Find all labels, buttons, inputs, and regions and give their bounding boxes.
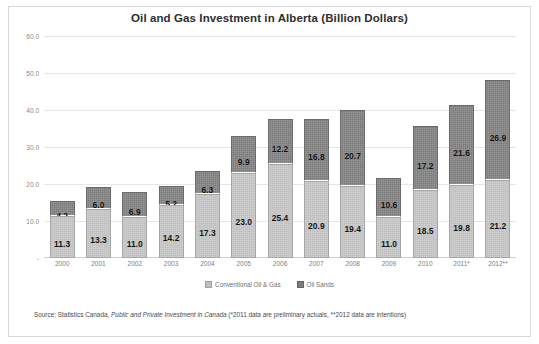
bar-value-label: 11.0 <box>127 240 143 249</box>
bar-series-container: 4.211.36.013.36.911.05.214.26.317.39.923… <box>44 36 516 258</box>
chart-screenshot: Oil and Gas Investment in Alberta (Billi… <box>0 0 539 344</box>
y-axis-tick-label: 10.0 <box>26 218 39 225</box>
x-axis-tick-label: 2001 <box>80 260 116 267</box>
stacked-bar[interactable]: 6.013.3 <box>86 187 111 258</box>
stacked-bar[interactable]: 16.820.9 <box>304 119 329 258</box>
x-axis-tick-label: 2004 <box>189 260 225 267</box>
bar-segment-conventional-oil-gas[interactable]: 13.3 <box>86 209 111 258</box>
bar-value-label: 14.2 <box>163 234 180 243</box>
y-axis-tick-label: 50.0 <box>26 70 39 77</box>
bar-segment-oil-sands[interactable]: 5.2 <box>159 186 184 205</box>
bar-slot[interactable]: 20.719.4 <box>335 36 371 258</box>
bar-value-label: 9.9 <box>238 158 250 167</box>
legend-label: Conventional Oil & Gas <box>215 281 280 288</box>
y-axis-tick-label: 40.0 <box>26 107 39 114</box>
stacked-bar[interactable]: 5.214.2 <box>159 186 184 258</box>
y-axis-tick-label: 30.0 <box>26 144 39 151</box>
bar-value-label: 20.7 <box>344 152 361 161</box>
bar-segment-conventional-oil-gas[interactable]: 17.3 <box>195 194 220 258</box>
stacked-bar[interactable]: 10.611.0 <box>376 178 401 258</box>
bar-segment-oil-sands[interactable]: 10.6 <box>376 178 401 217</box>
bar-segment-conventional-oil-gas[interactable]: 11.3 <box>50 216 75 258</box>
bar-slot[interactable]: 9.923.0 <box>226 36 262 258</box>
x-axis-labels: 2000200120022003200420052006200720082009… <box>44 260 516 267</box>
bar-segment-oil-sands[interactable]: 6.3 <box>195 171 220 194</box>
bar-slot[interactable]: 26.921.2 <box>480 36 516 258</box>
bar-segment-conventional-oil-gas[interactable]: 14.2 <box>159 205 184 258</box>
legend-swatch-conventional-icon <box>205 281 212 288</box>
source-suffix: (*2011 data are preliminary actuals, **2… <box>227 311 407 318</box>
stacked-bar[interactable]: 6.911.0 <box>122 192 147 258</box>
y-axis-tick-label: - <box>37 255 39 262</box>
bar-segment-oil-sands[interactable]: 20.7 <box>340 110 365 187</box>
stacked-bar[interactable]: 20.719.4 <box>340 110 365 258</box>
x-axis-tick-label: 2003 <box>153 260 189 267</box>
bar-segment-conventional-oil-gas[interactable]: 21.2 <box>485 180 510 258</box>
y-axis-tick-label: 60.0 <box>26 33 39 40</box>
bar-slot[interactable]: 16.820.9 <box>298 36 334 258</box>
chart-legend: Conventional Oil & GasOil Sands <box>0 281 539 288</box>
bar-slot[interactable]: 6.013.3 <box>80 36 116 258</box>
bar-value-label: 6.9 <box>129 208 141 217</box>
bar-segment-conventional-oil-gas[interactable]: 25.4 <box>268 164 293 258</box>
bar-value-label: 17.2 <box>417 162 434 171</box>
y-axis-tick-label: 20.0 <box>26 181 39 188</box>
source-publication-title: Public and Private Investment in Canada <box>111 311 226 318</box>
legend-swatch-oil-sands-icon <box>297 281 304 288</box>
bar-segment-conventional-oil-gas[interactable]: 19.4 <box>340 186 365 258</box>
bar-value-label: 21.6 <box>453 149 470 158</box>
stacked-bar[interactable]: 17.218.5 <box>413 126 438 258</box>
bar-segment-oil-sands[interactable]: 9.9 <box>231 136 256 173</box>
x-axis-tick-label: 2009 <box>371 260 407 267</box>
x-axis-tick-label: 2005 <box>226 260 262 267</box>
bar-segment-oil-sands[interactable]: 4.2 <box>50 201 75 217</box>
stacked-bar[interactable]: 26.921.2 <box>485 80 510 258</box>
bar-value-label: 17.3 <box>199 229 216 238</box>
bar-slot[interactable]: 6.317.3 <box>189 36 225 258</box>
x-axis-tick-label: 2008 <box>335 260 371 267</box>
bar-segment-oil-sands[interactable]: 6.9 <box>122 192 147 218</box>
bar-value-label: 19.4 <box>344 225 361 234</box>
bar-slot[interactable]: 4.211.3 <box>44 36 80 258</box>
x-axis-tick-label: 2012** <box>480 260 516 267</box>
bar-segment-oil-sands[interactable]: 17.2 <box>413 126 438 190</box>
bar-value-label: 21.2 <box>490 222 507 231</box>
x-axis-tick-label: 2010 <box>407 260 443 267</box>
bar-segment-conventional-oil-gas[interactable]: 18.5 <box>413 190 438 258</box>
x-axis-tick-label: 2011* <box>443 260 479 267</box>
source-prefix: Source: Statistics Canada, <box>34 311 111 318</box>
bar-segment-conventional-oil-gas[interactable]: 11.0 <box>122 217 147 258</box>
stacked-bar[interactable]: 4.211.3 <box>50 201 75 258</box>
bar-segment-oil-sands[interactable]: 26.9 <box>485 80 510 180</box>
bar-value-label: 26.9 <box>490 134 507 143</box>
bar-segment-oil-sands[interactable]: 6.0 <box>86 187 111 209</box>
bar-segment-conventional-oil-gas[interactable]: 19.8 <box>449 185 474 258</box>
chart-title: Oil and Gas Investment in Alberta (Billi… <box>0 12 539 24</box>
bar-segment-oil-sands[interactable]: 21.6 <box>449 105 474 185</box>
bar-segment-conventional-oil-gas[interactable]: 23.0 <box>231 173 256 258</box>
bar-segment-conventional-oil-gas[interactable]: 11.0 <box>376 217 401 258</box>
legend-item[interactable]: Oil Sands <box>297 281 334 288</box>
x-axis-tick-label: 2007 <box>298 260 334 267</box>
legend-item[interactable]: Conventional Oil & Gas <box>205 281 280 288</box>
x-axis-tick-label: 2002 <box>117 260 153 267</box>
stacked-bar[interactable]: 9.923.0 <box>231 136 256 258</box>
stacked-bar[interactable]: 21.619.8 <box>449 105 474 258</box>
bar-slot[interactable]: 6.911.0 <box>117 36 153 258</box>
bar-slot[interactable]: 17.218.5 <box>407 36 443 258</box>
bar-slot[interactable]: 21.619.8 <box>443 36 479 258</box>
bar-slot[interactable]: 12.225.4 <box>262 36 298 258</box>
bar-slot[interactable]: 5.214.2 <box>153 36 189 258</box>
source-note: Source: Statistics Canada, Public and Pr… <box>34 311 406 318</box>
bar-value-label: 18.5 <box>417 227 434 236</box>
bar-segment-oil-sands[interactable]: 16.8 <box>304 119 329 181</box>
bar-segment-oil-sands[interactable]: 12.2 <box>268 119 293 164</box>
bar-slot[interactable]: 10.611.0 <box>371 36 407 258</box>
legend-label: Oil Sands <box>307 281 334 288</box>
x-axis-tick-label: 2000 <box>44 260 80 267</box>
stacked-bar[interactable]: 12.225.4 <box>268 119 293 258</box>
bar-value-label: 11.0 <box>381 240 397 249</box>
bar-segment-conventional-oil-gas[interactable]: 20.9 <box>304 181 329 258</box>
bar-value-label: 13.3 <box>90 236 107 245</box>
stacked-bar[interactable]: 6.317.3 <box>195 171 220 258</box>
